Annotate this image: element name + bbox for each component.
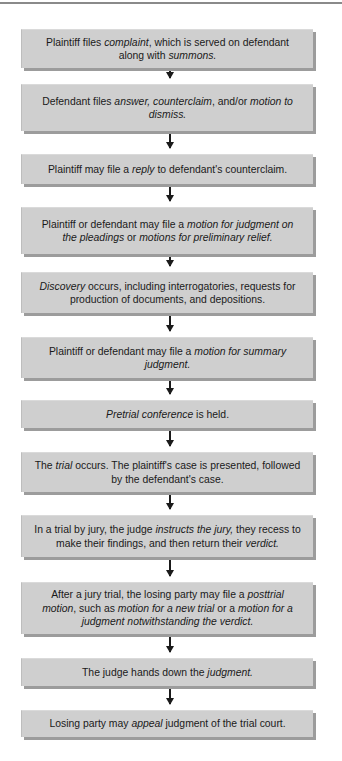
step-text-segment: occurs, including interrogatories, reque… [70, 281, 296, 305]
flow-step-1: Plaintiff files complaint, which is serv… [21, 29, 313, 68]
step-text-segment: Plaintiff files [46, 37, 104, 48]
step-text-segment: is held. [193, 409, 229, 420]
emphasized-term: judgment. [207, 667, 253, 678]
step-text-segment: In a trial by jury, the judge [34, 524, 155, 535]
step-text-segment: After a jury trial, the losing party may… [51, 589, 247, 600]
step-text-segment: Plaintiff may file a [48, 164, 132, 175]
step-text-segment: to defendant's counterclaim. [155, 164, 288, 175]
step-text-segment: The judge hands down the [82, 667, 207, 678]
flow-step-4: Plaintiff or defendant may file a motion… [21, 207, 313, 254]
emphasized-term: complaint [104, 37, 148, 48]
emphasized-term: Discovery [40, 281, 86, 292]
flow-step-text: After a jury trial, the losing party may… [34, 588, 301, 628]
flow-step-text: In a trial by jury, the judge instructs … [34, 523, 301, 550]
down-arrow-icon [169, 381, 171, 394]
flow-step-5: Discovery occurs, including interrogator… [21, 272, 313, 313]
down-arrow-icon [169, 257, 171, 266]
flow-step-12: Losing party may appeal judgment of the … [21, 710, 313, 737]
down-arrow-icon [169, 187, 171, 201]
step-text-segment: Plaintiff or defendant may file a [42, 219, 187, 230]
step-text-segment: Plaintiff or defendant may file a [49, 346, 194, 357]
step-text-segment: or [124, 232, 139, 243]
emphasized-term: trial [56, 460, 73, 471]
flow-step-text: Losing party may appeal judgment of the … [49, 717, 285, 730]
flow-step-11: The judge hands down the judgment. [21, 658, 313, 686]
flow-step-2: Defendant files answer, counterclaim, an… [21, 84, 313, 131]
down-arrow-icon [169, 316, 171, 331]
flow-step-text: Plaintiff may file a reply to defendant'… [48, 163, 287, 176]
emphasized-term: appeal [131, 718, 162, 729]
flow-step-7: Pretrial conference is held. [21, 400, 313, 428]
emphasized-term: verdict. [245, 538, 279, 549]
step-text-segment: or a [214, 603, 238, 614]
flow-step-10: After a jury trial, the losing party may… [21, 582, 313, 634]
top-rule-divider [0, 2, 342, 4]
flow-step-6: Plaintiff or defendant may file a motion… [21, 337, 313, 378]
flow-step-text: Plaintiff files complaint, which is serv… [34, 36, 301, 63]
emphasized-term: Pretrial conference [106, 409, 193, 420]
step-text-segment: judgment of the trial court. [163, 718, 286, 729]
flow-step-text: Plaintiff or defendant may file a motion… [34, 218, 301, 245]
emphasized-term: summons. [168, 50, 216, 61]
step-text-segment: Losing party may [49, 718, 131, 729]
step-text-segment: Defendant files [42, 96, 114, 107]
flow-step-9: In a trial by jury, the judge instructs … [21, 515, 313, 557]
emphasized-term: instructs the jury, [155, 524, 233, 535]
step-text-segment: occurs. The plaintiff's case is presente… [72, 460, 300, 484]
down-arrow-icon [169, 560, 171, 576]
flow-step-text: The trial occurs. The plaintiff's case i… [34, 459, 301, 486]
flow-step-text: Defendant files answer, counterclaim, an… [34, 95, 301, 122]
emphasized-term: motion for a new trial [118, 603, 214, 614]
flow-step-8: The trial occurs. The plaintiff's case i… [21, 452, 313, 492]
flow-step-text: Pretrial conference is held. [106, 408, 229, 421]
step-text-segment: , such as [73, 603, 117, 614]
emphasized-term: reply [132, 164, 155, 175]
emphasized-term: motions for preliminary relief. [139, 232, 272, 243]
emphasized-term: answer, counterclaim [114, 96, 212, 107]
step-text-segment: The [35, 460, 56, 471]
down-arrow-icon [169, 689, 171, 704]
flow-step-text: Plaintiff or defendant may file a motion… [34, 345, 301, 372]
down-arrow-icon [169, 71, 171, 78]
flow-step-3: Plaintiff may file a reply to defendant'… [21, 154, 313, 184]
down-arrow-icon [169, 431, 171, 446]
down-arrow-icon [169, 637, 171, 652]
down-arrow-icon [169, 495, 171, 509]
step-text-segment: , and/or [212, 96, 250, 107]
flow-step-text: Discovery occurs, including interrogator… [34, 280, 301, 307]
down-arrow-icon [169, 134, 171, 148]
flow-step-text: The judge hands down the judgment. [82, 666, 253, 679]
